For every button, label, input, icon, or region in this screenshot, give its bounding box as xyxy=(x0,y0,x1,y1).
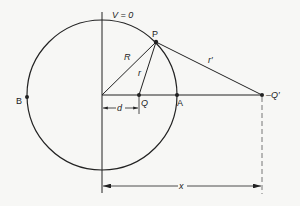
image-charge-label: –Q′ xyxy=(265,90,280,100)
image-charge-diagram: V = 0 P A B Q –Q′ R r r′ d x xyxy=(0,0,300,206)
r-label: r xyxy=(138,68,142,78)
point-Q-dot xyxy=(137,93,141,97)
potential-label: V = 0 xyxy=(112,10,133,20)
radius-label: R xyxy=(124,52,131,62)
point-B-dot xyxy=(25,95,29,99)
point-P-dot xyxy=(154,40,158,44)
r-prime-label: r′ xyxy=(208,55,213,65)
point-B-label: B xyxy=(16,96,22,106)
image-charge-dot xyxy=(260,93,264,97)
charge-Q-label: Q xyxy=(141,98,148,108)
point-A-label: A xyxy=(177,98,183,108)
point-A-dot xyxy=(175,93,179,97)
point-P-label: P xyxy=(152,29,158,39)
x-label: x xyxy=(178,181,184,191)
